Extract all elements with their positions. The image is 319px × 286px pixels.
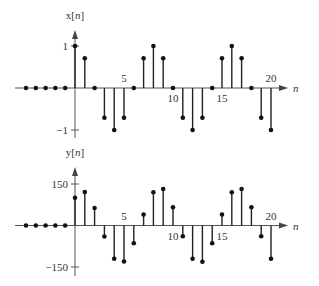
stem-marker xyxy=(259,234,264,239)
stem-marker xyxy=(200,259,205,264)
stem-marker xyxy=(239,56,244,61)
x-axis-arrow-icon xyxy=(279,223,288,229)
stem-marker xyxy=(230,190,235,195)
stem-marker xyxy=(112,256,117,261)
stem-plot-figure: nx[n]1−15101520ny[n]150−1505101520 xyxy=(0,0,319,286)
y-tick-label: 1 xyxy=(63,40,69,52)
stem-marker xyxy=(249,86,254,91)
y-axis-label: y[n] xyxy=(66,146,84,158)
stem-marker xyxy=(269,256,274,261)
stem-marker xyxy=(181,234,186,239)
stem-marker xyxy=(34,86,39,91)
stem-marker xyxy=(259,115,264,120)
stem-marker xyxy=(171,205,176,210)
stem-marker xyxy=(102,115,107,120)
stem-marker xyxy=(63,86,68,91)
stem-marker xyxy=(24,223,29,228)
stem-marker xyxy=(161,187,166,192)
stem-marker xyxy=(210,241,215,246)
stem-marker xyxy=(53,223,58,228)
x-tick-label: 5 xyxy=(121,72,127,84)
stem-marker xyxy=(269,128,274,133)
x-tick-label: 5 xyxy=(121,210,127,222)
stem-marker xyxy=(220,56,225,61)
stem-marker xyxy=(181,115,186,120)
stem-marker xyxy=(171,86,176,91)
stem-marker xyxy=(34,223,39,228)
x-axis-label: n xyxy=(293,82,299,94)
x-tick-label: 10 xyxy=(168,230,180,242)
stem-marker xyxy=(92,206,97,211)
x-axis-label: n xyxy=(293,220,299,232)
stem-marker xyxy=(73,44,78,49)
stem-marker xyxy=(161,56,166,61)
x-tick-label: 15 xyxy=(217,92,229,104)
stem-plot-x: nx[n]1−15101520 xyxy=(15,9,299,138)
stem-marker xyxy=(249,205,254,210)
stem-marker xyxy=(83,190,88,195)
y-tick-label: −150 xyxy=(45,261,68,273)
y-axis-label: x[n] xyxy=(66,9,84,21)
stem-marker xyxy=(190,256,195,261)
y-tick-label: −1 xyxy=(56,124,68,136)
stem-marker xyxy=(151,190,156,195)
stem-marker xyxy=(122,115,127,120)
y-axis-arrow-icon xyxy=(72,30,78,39)
stem-plot-y: ny[n]150−1505101520 xyxy=(15,146,299,276)
x-tick-label: 20 xyxy=(266,210,278,222)
stem-marker xyxy=(63,223,68,228)
stem-marker xyxy=(53,86,58,91)
x-tick-label: 20 xyxy=(266,72,278,84)
stem-marker xyxy=(141,56,146,61)
stem-marker xyxy=(239,187,244,192)
stem-marker xyxy=(43,223,48,228)
x-tick-label: 10 xyxy=(168,92,180,104)
stem-marker xyxy=(73,196,78,201)
stem-marker xyxy=(210,86,215,91)
stem-marker xyxy=(132,86,137,91)
stem-marker xyxy=(43,86,48,91)
stem-marker xyxy=(112,128,117,133)
figure-canvas: nx[n]1−15101520ny[n]150−1505101520 xyxy=(0,0,319,286)
stem-marker xyxy=(24,86,29,91)
y-axis-arrow-icon xyxy=(72,167,78,176)
y-tick-label: 150 xyxy=(52,178,69,190)
stem-marker xyxy=(122,259,127,264)
stem-marker xyxy=(141,212,146,217)
stem-marker xyxy=(230,44,235,49)
stem-marker xyxy=(83,56,88,61)
stem-marker xyxy=(132,241,137,246)
stem-marker xyxy=(92,86,97,91)
stem-marker xyxy=(151,44,156,49)
stem-marker xyxy=(200,115,205,120)
x-axis-arrow-icon xyxy=(279,85,288,91)
x-tick-label: 15 xyxy=(217,230,229,242)
stem-marker xyxy=(190,128,195,133)
stem-marker xyxy=(102,234,107,239)
stem-marker xyxy=(220,212,225,217)
